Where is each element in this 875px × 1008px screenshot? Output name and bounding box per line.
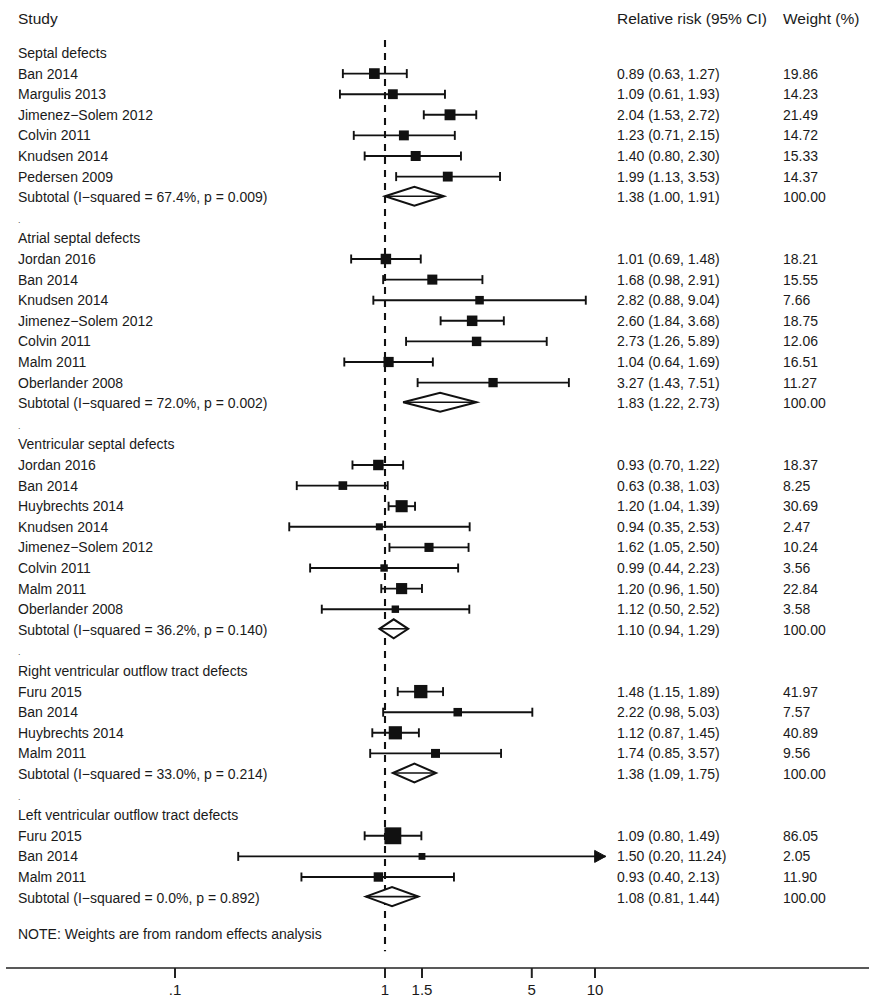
subtotal-label: Subtotal (I−squared = 72.0%, p = 0.002) [18,395,267,411]
study-effect-value: 1.40 (0.80, 2.30) [617,148,720,164]
study-label: Malm 2011 [18,745,86,761]
study-weight-value: 3.56 [783,560,810,576]
study-label: Ban 2014 [18,478,78,494]
effect-marker [475,296,484,305]
subtotal-weight-value: 100.00 [783,189,826,205]
effect-marker [445,109,456,120]
study-weight-value: 15.33 [783,148,818,164]
study-effect-value: 1.09 (0.61, 1.93) [617,86,720,102]
study-label: Ban 2014 [18,704,78,720]
study-weight-value: 14.72 [783,127,818,143]
study-weight-value: 8.25 [783,478,810,494]
group-heading: Septal defects [18,45,107,61]
ci-arrow-truncated [595,850,606,862]
effect-marker [374,872,383,881]
study-weight-value: 7.57 [783,704,810,720]
study-effect-value: 0.63 (0.38, 1.03) [617,478,720,494]
subtotal-weight-value: 100.00 [783,766,826,782]
study-label: Colvin 2011 [18,560,91,576]
x-axis-tick-label: 5 [528,981,536,998]
subtotal-weight-value: 100.00 [783,890,826,906]
study-weight-value: 11.90 [783,869,817,885]
x-axis-tick-label: 10 [587,981,604,998]
study-label: Huybrechts 2014 [18,725,124,741]
group-separator-dot: . [18,792,21,802]
study-weight-value: 18.75 [783,313,818,329]
study-effect-value: 0.93 (0.70, 1.22) [617,457,720,473]
effect-marker [453,708,462,717]
study-label: Colvin 2011 [18,333,91,349]
study-weight-value: 86.05 [783,828,818,844]
group-heading: Ventricular septal defects [18,436,174,452]
study-label: Colvin 2011 [18,127,91,143]
study-effect-value: 3.27 (1.43, 7.51) [617,375,720,391]
study-weight-value: 21.49 [783,107,818,123]
forest-plot-figure: StudyRelative risk (95% CI)Weight (%)Sep… [0,0,875,1008]
study-effect-value: 2.73 (1.26, 5.89) [617,333,720,349]
effect-marker [427,275,437,285]
study-effect-value: 1.01 (0.69, 1.48) [617,251,720,267]
x-axis-tick-label: 1.5 [412,981,433,998]
study-effect-value: 1.23 (0.71, 2.15) [617,127,720,143]
group-heading: Atrial septal defects [18,230,140,246]
group-heading: Left ventricular outflow tract defects [18,807,238,823]
study-label: Jimenez−Solem 2012 [18,107,153,123]
study-effect-value: 1.09 (0.80, 1.49) [617,828,720,844]
study-effect-value: 1.48 (1.15, 1.89) [617,684,720,700]
study-label: Knudsen 2014 [18,148,109,164]
study-weight-value: 9.56 [783,745,810,761]
study-weight-value: 18.21 [783,251,818,267]
effect-marker [384,827,401,844]
effect-marker [431,749,440,758]
effect-marker [396,583,407,594]
subtotal-label: Subtotal (I−squared = 36.2%, p = 0.140) [18,622,267,638]
effect-marker [443,172,453,182]
study-effect-value: 1.12 (0.50, 2.52) [617,601,720,617]
study-effect-value: 2.04 (1.53, 2.72) [617,107,720,123]
study-effect-value: 1.50 (0.20, 11.24) [617,848,726,864]
study-label: Ban 2014 [18,272,78,288]
study-effect-value: 1.20 (0.96, 1.50) [617,581,720,597]
effect-marker [488,378,497,387]
study-effect-value: 1.99 (1.13, 3.53) [617,169,720,185]
study-effect-value: 1.12 (0.87, 1.45) [617,725,720,741]
effect-marker [373,460,383,470]
effect-marker [411,151,421,161]
subtotal-label: Subtotal (I−squared = 0.0%, p = 0.892) [18,890,260,906]
study-label: Ban 2014 [18,66,78,82]
study-weight-value: 11.27 [783,375,817,391]
effect-marker [383,357,393,367]
study-label: Jimenez−Solem 2012 [18,539,153,555]
subtotal-effect-value: 1.38 (1.00, 1.91) [617,189,720,205]
study-weight-value: 18.37 [783,457,818,473]
study-effect-value: 0.89 (0.63, 1.27) [617,66,720,82]
study-weight-value: 41.97 [783,684,818,700]
study-label: Jimenez−Solem 2012 [18,313,153,329]
subtotal-label: Subtotal (I−squared = 33.0%, p = 0.214) [18,766,267,782]
effect-marker [472,337,481,346]
effect-marker [414,685,427,698]
subtotal-weight-value: 100.00 [783,622,826,638]
subtotal-weight-value: 100.00 [783,395,826,411]
effect-marker [388,89,398,99]
group-separator-dot: . [18,647,21,657]
study-weight-value: 14.37 [783,169,818,185]
subtotal-label: Subtotal (I−squared = 67.4%, p = 0.009) [18,189,267,205]
subtotal-effect-value: 1.38 (1.09, 1.75) [617,766,720,782]
x-axis-tick-label: 1 [381,981,389,998]
study-weight-value: 16.51 [783,354,818,370]
effect-marker [419,853,426,860]
study-label: Furu 2015 [18,684,82,700]
study-weight-value: 15.55 [783,272,818,288]
effect-marker [399,130,409,140]
study-label: Jordan 2016 [18,457,96,473]
study-label: Pedersen 2009 [18,169,113,185]
study-weight-value: 2.47 [783,519,810,535]
study-effect-value: 2.82 (0.88, 9.04) [617,292,720,308]
study-effect-value: 1.04 (0.64, 1.69) [617,354,720,370]
study-label: Knudsen 2014 [18,519,109,535]
group-separator-dot: . [18,215,21,225]
study-weight-value: 10.24 [783,539,818,555]
study-effect-value: 2.60 (1.84, 3.68) [617,313,720,329]
study-label: Knudsen 2014 [18,292,109,308]
